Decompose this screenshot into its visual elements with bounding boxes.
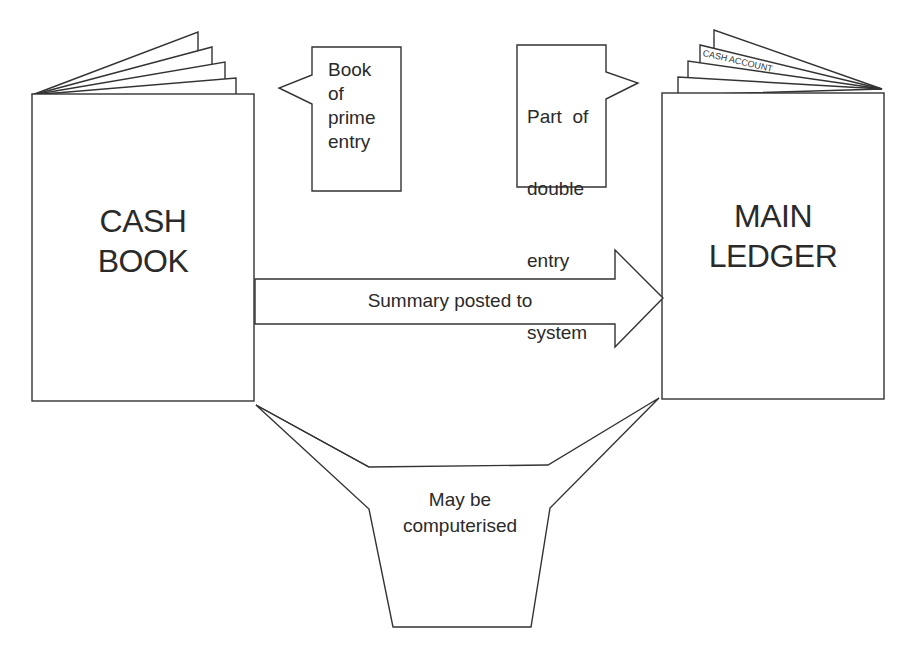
main-ledger-title: MAIN LEDGER <box>662 196 884 276</box>
callout-right-text: Part of double entry system <box>527 57 607 369</box>
cash-book-title: CASH BOOK <box>32 201 254 281</box>
callout-right-line: double <box>527 177 607 201</box>
main-ledger-title-line1: MAIN <box>662 196 884 236</box>
callout-left-line: prime <box>328 106 398 130</box>
callout-left-line: entry <box>328 130 398 154</box>
callout-right-line: system <box>527 321 607 345</box>
main-ledger-title-line2: LEDGER <box>662 236 884 276</box>
callout-left-line: Book <box>328 58 398 82</box>
callout-right-line: Part of <box>527 105 607 129</box>
diagram-canvas <box>0 0 899 651</box>
funnel-label: May be computerised <box>380 487 540 539</box>
funnel-label-line2: computerised <box>380 513 540 539</box>
main-ledger-pages <box>678 30 882 95</box>
funnel-label-line1: May be <box>380 487 540 513</box>
summary-arrow-label: Summary posted to <box>300 290 600 312</box>
callout-left-text: Book of prime entry <box>328 58 398 154</box>
cash-book-title-line2: BOOK <box>32 241 254 281</box>
cash-book-pages <box>32 32 236 95</box>
callout-right-line: entry <box>527 249 607 273</box>
cash-book-title-line1: CASH <box>32 201 254 241</box>
callout-left-line: of <box>328 82 398 106</box>
